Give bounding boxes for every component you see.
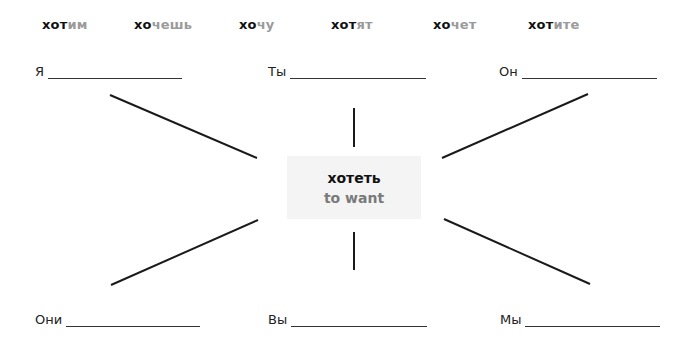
center-verb-box: хотеть to want [287, 156, 421, 219]
blank-oni[interactable]: Они [35, 312, 200, 327]
answer-line[interactable] [525, 314, 660, 327]
infinitive: хотеть [327, 168, 380, 188]
blank-vy[interactable]: Вы [268, 312, 427, 327]
answer-line[interactable] [66, 314, 200, 327]
pronoun-label: Мы [500, 312, 521, 327]
pronoun-label: Вы [268, 312, 287, 327]
line-bottom-left [111, 220, 258, 285]
line-top-left [110, 95, 257, 158]
blank-my[interactable]: Мы [500, 312, 660, 327]
answer-line[interactable] [291, 314, 427, 327]
line-bottom-right [444, 219, 590, 284]
line-top-right [442, 94, 588, 158]
pronoun-label: Они [35, 312, 62, 327]
translation: to want [324, 188, 384, 208]
